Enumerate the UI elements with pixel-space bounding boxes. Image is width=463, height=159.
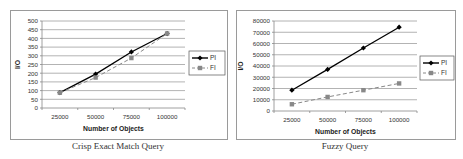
x-axis-label: Number of Objects	[83, 125, 144, 133]
y-tick-label: 350	[28, 43, 39, 50]
fuzzy-chart: 0100002000030000400005000060000700008000…	[231, 0, 463, 159]
y-tick-label: 20000	[253, 85, 271, 92]
y-tick-label: 100	[28, 87, 39, 94]
y-tick-label: 50000	[253, 51, 271, 58]
x-tick-label: 50000	[319, 116, 337, 123]
y-tick-label: 60000	[253, 40, 271, 47]
crisp-chart-panel: 0501001502002503003504004505002500050000…	[0, 0, 230, 159]
y-tick-label: 70000	[253, 29, 271, 36]
series-pi	[57, 31, 169, 95]
y-axis-label: I/O	[14, 60, 21, 69]
y-tick-label: 300	[28, 52, 39, 59]
x-tick-label: 75000	[123, 113, 141, 120]
y-tick-label: 150	[28, 78, 39, 85]
y-tick-label: 50	[31, 96, 38, 103]
x-tick-label: 100000	[157, 113, 178, 120]
fuzzy-chart-panel: 0100002000030000400005000060000700008000…	[231, 0, 463, 159]
svg-text:PI: PI	[441, 59, 447, 66]
y-tick-label: 400	[28, 35, 39, 42]
series-pi	[289, 25, 401, 93]
svg-text:FI: FI	[441, 69, 447, 76]
y-tick-label: 80000	[253, 17, 271, 24]
x-tick-label: 75000	[355, 116, 373, 123]
y-axis-label: I/O	[237, 61, 244, 70]
legend: PIFI	[420, 56, 454, 80]
series-fi	[290, 81, 402, 106]
crisp-chart: 0501001502002503003504004505002500050000…	[0, 0, 230, 159]
y-tick-label: 450	[28, 26, 39, 33]
y-tick-label: 10000	[253, 96, 271, 103]
y-tick-label: 0	[35, 104, 39, 111]
y-tick-label: 40000	[253, 62, 271, 69]
x-tick-label: 50000	[87, 113, 105, 120]
y-tick-label: 0	[267, 107, 271, 114]
fuzzy-chart-caption: Fuzzy Query	[236, 141, 454, 151]
y-tick-label: 30000	[253, 74, 271, 81]
y-tick-label: 200	[28, 70, 39, 77]
x-tick-label: 100000	[389, 116, 410, 123]
x-axis-label: Number of Objects	[315, 128, 376, 136]
svg-text:FI: FI	[210, 64, 216, 71]
x-tick-label: 25000	[283, 116, 301, 123]
x-tick-label: 25000	[51, 113, 69, 120]
svg-text:PI: PI	[210, 54, 216, 61]
crisp-chart-caption: Crisp Exact Match Query	[10, 141, 226, 151]
legend: PIFI	[189, 51, 225, 75]
y-tick-label: 250	[28, 61, 39, 68]
y-tick-label: 500	[28, 17, 39, 24]
